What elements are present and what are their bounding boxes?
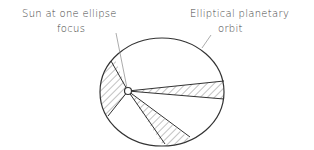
sun-label-line1: Sun at one ellipse <box>22 8 117 20</box>
kepler-orbit-diagram <box>0 0 314 150</box>
orbit-label-line2: orbit <box>218 23 243 35</box>
sun-label-line2: focus <box>57 23 85 35</box>
sun-icon <box>125 88 132 95</box>
orbit-label-line1: Elliptical planetary <box>190 8 289 20</box>
right-swept-area <box>128 80 232 100</box>
orbit-leader-line <box>202 35 211 48</box>
bottom-swept-area <box>128 91 194 150</box>
